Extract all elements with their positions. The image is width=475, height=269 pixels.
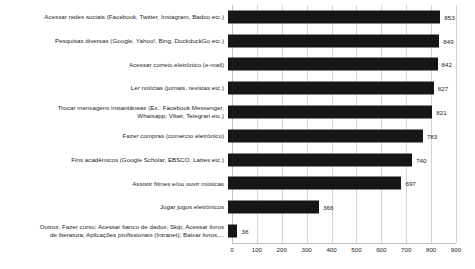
bar-zone: 821	[228, 100, 475, 124]
bar-value-label: 783	[427, 132, 437, 139]
chart-row: Assistir filmes e/ou ouvir músicas697	[0, 172, 475, 196]
bar-value-label: 366	[323, 204, 333, 211]
x-tick-label: 0	[230, 246, 233, 253]
bar-zone: 740	[228, 148, 475, 172]
bar-zone: 849	[228, 29, 475, 53]
bar-value-label: 827	[438, 85, 448, 92]
bar-value-label: 853	[444, 13, 454, 20]
x-axis-tick-labels: 0100200300400500600700800900	[232, 246, 456, 260]
bar-zone: 842	[228, 53, 475, 77]
category-label: Fins acadêmicos (Google Scholar, EBSCO, …	[0, 156, 228, 164]
bar-value-label: 740	[416, 156, 426, 163]
bar-zone: 697	[228, 172, 475, 196]
category-label: Assistir filmes e/ou ouvir músicas	[0, 180, 228, 188]
category-label: Jogar jogos eletrônicos	[0, 203, 228, 211]
category-label: Fazer compras (comércio eletrônico)	[0, 132, 228, 140]
chart-row: Pesquisas diversas (Google, Yahoo!, Bing…	[0, 29, 475, 53]
category-label: Ler notícias (jornais, revistas etc.)	[0, 84, 228, 92]
bar-value-label: 697	[405, 180, 415, 187]
category-label: Acessar correio eletrônico (e-mail)	[0, 61, 228, 69]
chart-plot-rows: Acessar redes sociais (Facebook, Twitter…	[0, 5, 475, 243]
bar-value-label: 849	[443, 37, 453, 44]
chart-row: Fins acadêmicos (Google Scholar, EBSCO, …	[0, 148, 475, 172]
bar-zone: 38	[228, 219, 475, 243]
bar-value-label: 842	[442, 61, 452, 68]
bar	[228, 201, 319, 214]
bar-chart: Acessar redes sociais (Facebook, Twitter…	[0, 0, 475, 269]
chart-row: Outros: Fazer curso; Acessar banco de da…	[0, 219, 475, 243]
chart-row: Jogar jogos eletrônicos366	[0, 195, 475, 219]
bar	[228, 10, 440, 23]
bar-value-label: 38	[241, 228, 248, 235]
x-tick-label: 400	[326, 246, 336, 253]
x-tick-label: 900	[451, 246, 461, 253]
bar	[228, 177, 401, 190]
bar	[228, 34, 439, 47]
category-label: Pesquisas diversas (Google, Yahoo!, Bing…	[0, 37, 228, 45]
chart-row: Acessar correio eletrônico (e-mail)842	[0, 53, 475, 77]
bar	[228, 225, 237, 238]
x-axis-line	[232, 243, 456, 244]
x-tick-label: 300	[301, 246, 311, 253]
bar	[228, 153, 412, 166]
x-tick-label: 200	[277, 246, 287, 253]
bar-zone: 366	[228, 195, 475, 219]
x-tick-label: 700	[401, 246, 411, 253]
bar-zone: 827	[228, 76, 475, 100]
x-tick-label: 800	[426, 246, 436, 253]
bar-zone: 783	[228, 124, 475, 148]
x-tick-label: 500	[351, 246, 361, 253]
chart-row: Fazer compras (comércio eletrônico)783	[0, 124, 475, 148]
chart-row: Acessar redes sociais (Facebook, Twitter…	[0, 5, 475, 29]
category-label: Trocar mensagens instantâneas (Ex.: Face…	[0, 104, 228, 119]
bar-value-label: 821	[436, 109, 446, 116]
bar	[228, 82, 434, 95]
bar	[228, 106, 432, 119]
chart-row: Trocar mensagens instantâneas (Ex.: Face…	[0, 100, 475, 124]
category-label: Acessar redes sociais (Facebook, Twitter…	[0, 13, 228, 21]
bar-zone: 853	[228, 5, 475, 29]
x-tick-label: 100	[252, 246, 262, 253]
bar	[228, 58, 438, 71]
bar	[228, 129, 423, 142]
chart-row: Ler notícias (jornais, revistas etc.)827	[0, 76, 475, 100]
category-label: Outros: Fazer curso; Acessar banco de da…	[0, 223, 228, 238]
x-tick-label: 600	[376, 246, 386, 253]
